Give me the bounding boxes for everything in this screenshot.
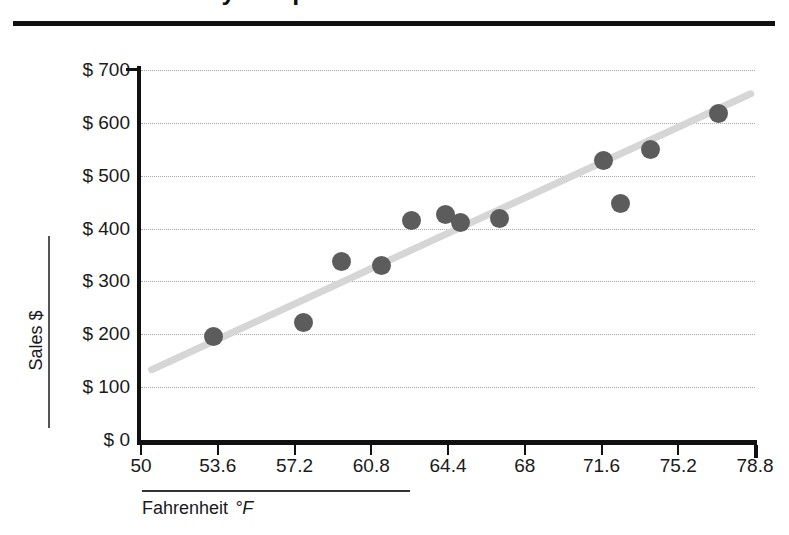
data-point-marker	[294, 313, 313, 332]
x-axis-tick-label: 64.4	[430, 455, 467, 477]
y-axis-tick-label: $ 500	[52, 165, 130, 187]
y-axis-tick-label: $ 300	[52, 270, 130, 292]
y-axis-tick-label: $ 600	[52, 112, 130, 134]
x-axis-title-rule	[142, 490, 410, 492]
y-axis-tick-label: $ 100	[52, 376, 130, 398]
y-axis-tick-label: $ 700	[52, 59, 130, 81]
x-axis-tick-mark	[140, 445, 142, 455]
y-axis-title: Sales $	[26, 271, 47, 411]
x-axis-unit-text: °F	[228, 498, 253, 518]
x-axis-tick-label: 68	[514, 455, 535, 477]
x-axis-tick-label: 60.8	[353, 455, 390, 477]
trendline	[152, 94, 751, 370]
x-axis-tick-mark	[294, 445, 296, 455]
x-axis-tick-mark	[217, 445, 219, 455]
x-axis-tick-label: 71.6	[583, 455, 620, 477]
x-axis-title: Fahrenheit°F	[142, 498, 253, 519]
data-point-marker	[709, 104, 728, 123]
x-axis-tick-mark	[370, 445, 372, 455]
data-point-marker	[332, 252, 351, 271]
x-axis-tick-label: 78.8	[737, 455, 774, 477]
chart-page: Sales versus Daily Temperature $ 0$ 100$…	[0, 0, 789, 535]
y-axis-tick-label: $ 400	[52, 218, 130, 240]
x-axis-tick-mark	[601, 445, 603, 455]
data-point-marker	[451, 213, 470, 232]
data-point-marker	[490, 209, 509, 228]
plot-area	[141, 70, 755, 440]
x-axis-tick-label: 50	[130, 455, 151, 477]
x-axis-tick-label: 57.2	[276, 455, 313, 477]
x-axis-tick-mark	[524, 445, 526, 455]
trendline-svg	[141, 70, 755, 440]
x-axis-tick-label: 53.6	[199, 455, 236, 477]
y-axis-tick-labels: $ 0$ 100$ 200$ 300$ 400$ 500$ 600$ 700	[40, 0, 130, 535]
x-axis-tick-mark	[447, 445, 449, 455]
y-axis-tick-label: $ 200	[52, 323, 130, 345]
x-axis-tick-mark	[677, 445, 679, 455]
data-point-marker	[372, 256, 391, 275]
data-point-marker	[402, 211, 421, 230]
x-axis-title-text: Fahrenheit	[142, 498, 228, 518]
y-axis-title-rule	[48, 236, 50, 428]
y-axis-tick-label: $ 0	[52, 429, 130, 451]
x-axis-tick-label: 75.2	[660, 455, 697, 477]
